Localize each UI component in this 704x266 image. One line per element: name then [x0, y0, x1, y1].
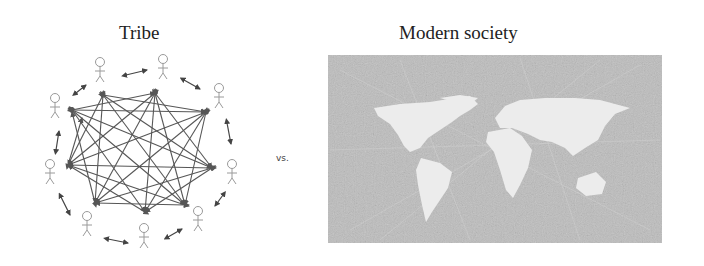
world-map-image: [328, 55, 662, 243]
person-icon: [95, 58, 105, 83]
person-icon: [45, 160, 55, 185]
tribe-connections: [68, 93, 212, 212]
person-icon: [214, 84, 224, 109]
tribe-network-diagram: [0, 0, 704, 266]
person-icon: [50, 94, 60, 119]
person-icon: [158, 55, 168, 80]
person-icon: [82, 212, 92, 237]
person-icon: [193, 207, 203, 232]
tribe-people: [45, 55, 237, 249]
person-icon: [227, 160, 237, 185]
person-icon: [139, 224, 149, 249]
